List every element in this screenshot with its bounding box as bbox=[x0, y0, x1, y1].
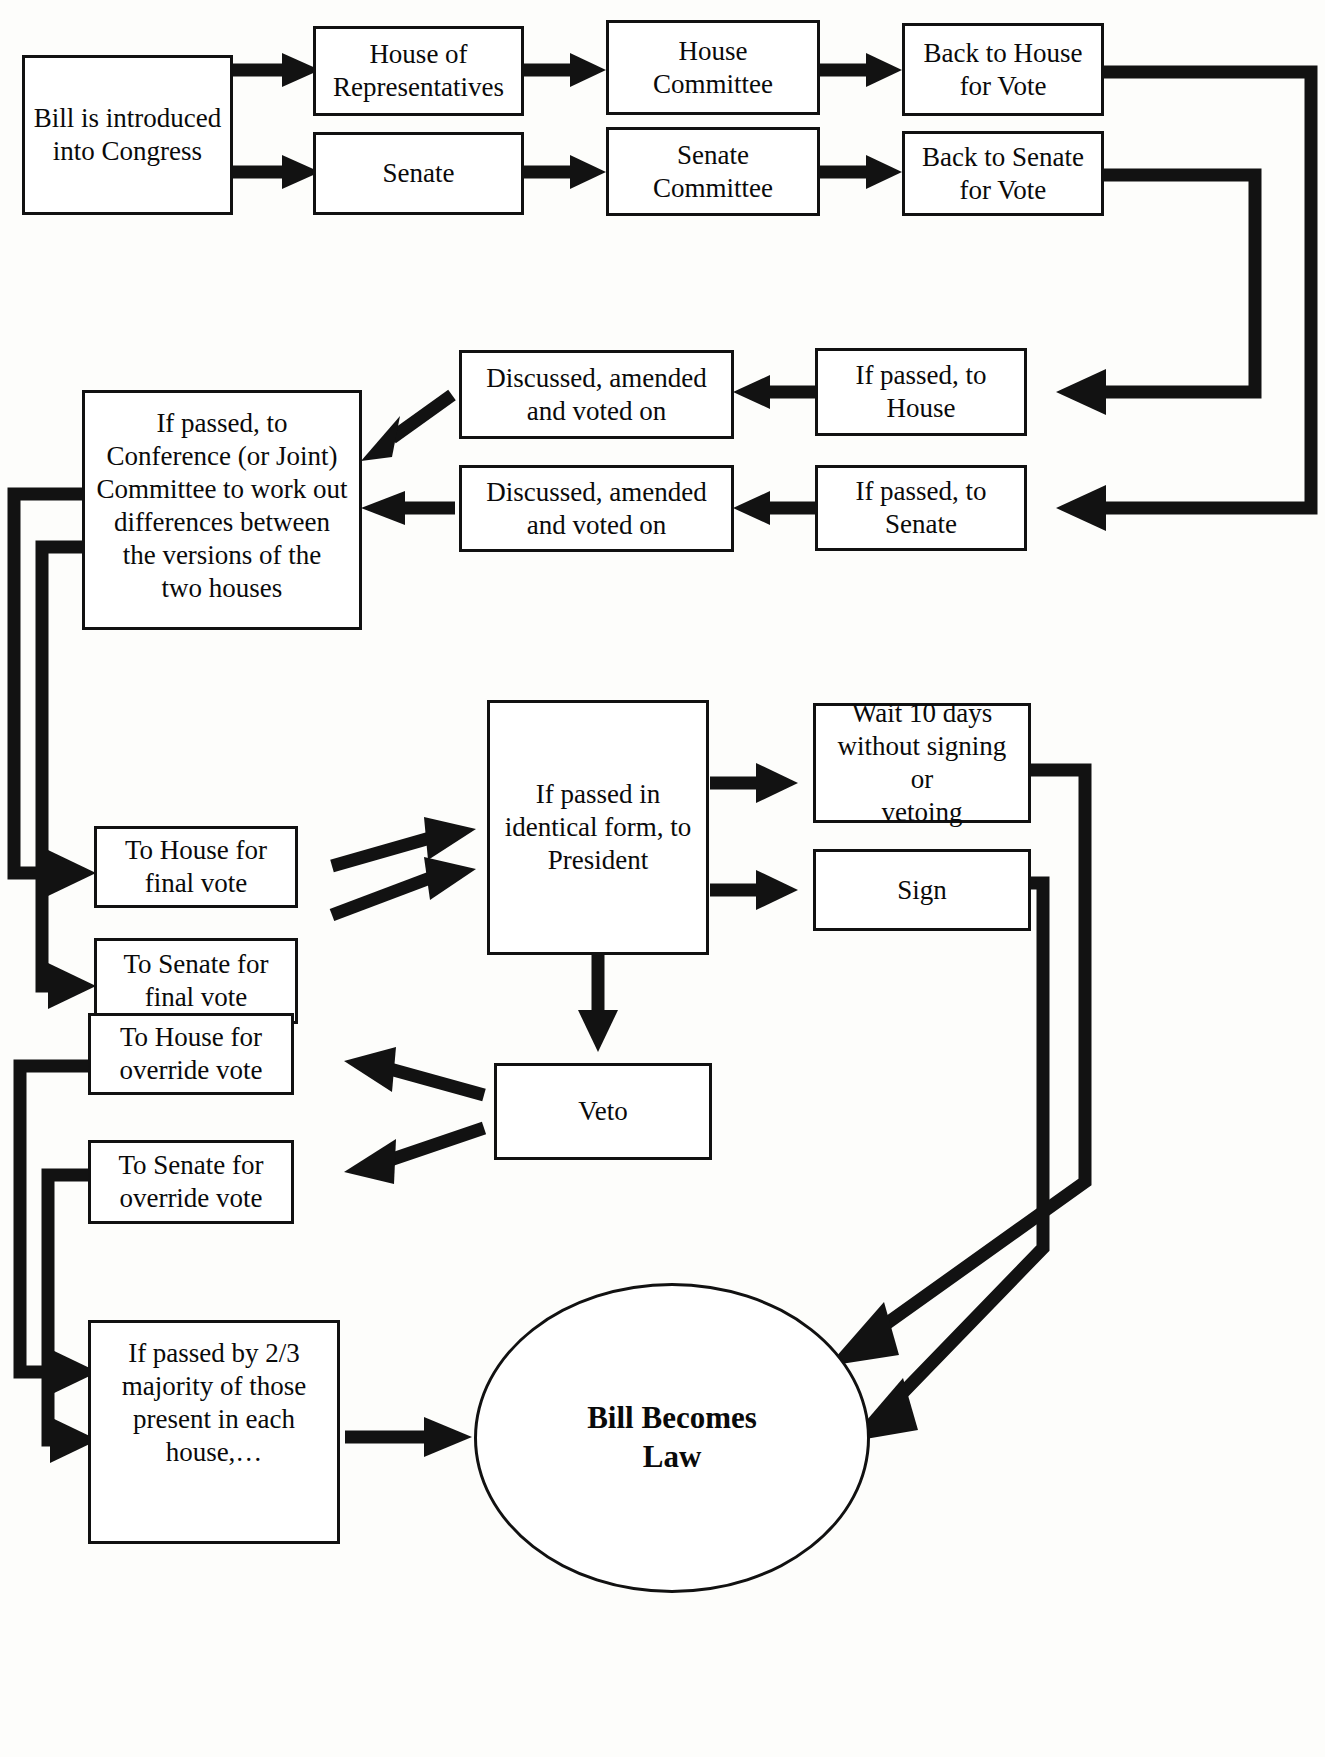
node-label: House of Representatives bbox=[333, 38, 504, 104]
node-label: To Senate for final vote bbox=[123, 948, 268, 1014]
node-label: Back to House for Vote bbox=[924, 37, 1083, 103]
node-label: Veto bbox=[578, 1095, 628, 1128]
node-conference-committee[interactable]: If passed, to Conference (or Joint) Comm… bbox=[82, 390, 362, 630]
node-label: If passed in identical form, to Presiden… bbox=[505, 778, 692, 877]
node-back-to-senate-for-vote[interactable]: Back to Senate for Vote bbox=[902, 131, 1104, 216]
edge-sign-to-law bbox=[848, 883, 1043, 1442]
node-to-president[interactable]: If passed in identical form, to Presiden… bbox=[487, 700, 709, 955]
node-discussed-amended-senate[interactable]: Discussed, amended and voted on bbox=[459, 465, 734, 552]
edge-discussed-1-to-conference bbox=[361, 395, 452, 461]
edge-veto-to-senate-override bbox=[344, 1128, 484, 1184]
node-label: If passed by 2/3 majority of those prese… bbox=[122, 1337, 306, 1469]
node-label: Discussed, amended and voted on bbox=[486, 476, 706, 542]
node-to-house-final-vote[interactable]: To House for final vote bbox=[94, 826, 298, 908]
node-senate-committee[interactable]: Senate Committee bbox=[606, 127, 820, 216]
edge-president-to-veto bbox=[578, 955, 618, 1052]
node-discussed-amended-house[interactable]: Discussed, amended and voted on bbox=[459, 350, 734, 439]
node-label: Discussed, amended and voted on bbox=[486, 362, 706, 428]
node-house-of-representatives[interactable]: House of Representatives bbox=[313, 26, 524, 116]
edge-bill-to-house bbox=[233, 53, 320, 87]
node-house-committee[interactable]: House Committee bbox=[606, 20, 820, 115]
node-label: If passed, to House bbox=[855, 359, 986, 425]
node-senate[interactable]: Senate bbox=[313, 132, 524, 215]
edge-senate-final-to-president bbox=[332, 857, 476, 915]
node-wait-ten-days[interactable]: Wait 10 days without signing or vetoing bbox=[813, 703, 1031, 823]
node-label: Senate Committee bbox=[653, 139, 773, 205]
edge-house-final-to-president bbox=[332, 817, 476, 866]
edge-house-to-house-committee bbox=[524, 53, 606, 87]
node-label: House Committee bbox=[653, 35, 773, 101]
node-label: To House for final vote bbox=[125, 834, 267, 900]
node-if-passed-to-senate[interactable]: If passed, to Senate bbox=[815, 465, 1027, 551]
node-to-house-override-vote[interactable]: To House for override vote bbox=[88, 1013, 294, 1095]
node-to-senate-final-vote[interactable]: To Senate for final vote bbox=[94, 938, 298, 1024]
edge-president-to-sign bbox=[710, 870, 798, 910]
node-label: Senate bbox=[383, 157, 455, 190]
node-if-passed-to-house[interactable]: If passed, to House bbox=[815, 348, 1027, 436]
edge-bill-to-senate bbox=[233, 155, 320, 189]
node-label: Bill Becomes Law bbox=[587, 1399, 757, 1477]
node-bill-becomes-law[interactable]: Bill Becomes Law bbox=[474, 1283, 870, 1593]
edge-senate-committee-to-vote bbox=[820, 155, 902, 189]
node-bill-introduced[interactable]: Bill is introduced into Congress bbox=[22, 55, 233, 215]
node-back-to-house-for-vote[interactable]: Back to House for Vote bbox=[902, 23, 1104, 116]
node-label: Bill is introduced into Congress bbox=[34, 102, 221, 168]
edge-majority-to-law bbox=[345, 1417, 472, 1457]
node-label: Sign bbox=[897, 874, 947, 907]
edge-if-passed-senate-to-discussed-2 bbox=[733, 491, 815, 525]
flowchart-canvas: Bill is introduced into Congress House o… bbox=[0, 0, 1325, 1757]
edge-discussed-2-to-conference bbox=[361, 491, 455, 525]
edge-house-committee-to-vote bbox=[820, 53, 902, 87]
edge-president-to-wait bbox=[710, 763, 798, 803]
edge-veto-to-house-override bbox=[344, 1047, 484, 1095]
edge-if-passed-house-to-discussed-1 bbox=[733, 375, 815, 409]
node-sign[interactable]: Sign bbox=[813, 849, 1031, 931]
node-label: Wait 10 days without signing or vetoing bbox=[824, 697, 1020, 829]
node-label: If passed, to Conference (or Joint) Comm… bbox=[96, 407, 347, 605]
edge-house-override-to-majority bbox=[20, 1066, 98, 1395]
node-label: If passed, to Senate bbox=[855, 475, 986, 541]
node-veto[interactable]: Veto bbox=[494, 1063, 712, 1160]
node-to-senate-override-vote[interactable]: To Senate for override vote bbox=[88, 1140, 294, 1224]
node-label: To Senate for override vote bbox=[118, 1149, 263, 1215]
edge-senate-to-senate-committee bbox=[524, 155, 606, 189]
node-label: Back to Senate for Vote bbox=[922, 141, 1084, 207]
node-two-thirds-majority[interactable]: If passed by 2/3 majority of those prese… bbox=[88, 1320, 340, 1544]
node-label: To House for override vote bbox=[119, 1021, 262, 1087]
